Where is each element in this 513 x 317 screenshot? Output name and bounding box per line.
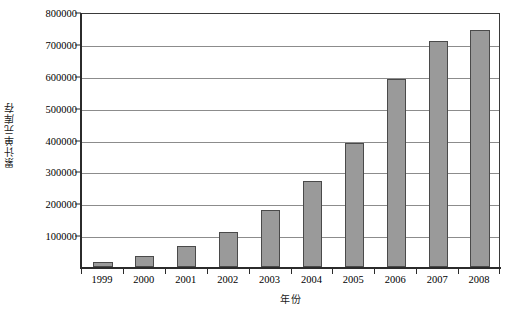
x-axis-tick-label: 2007 [427, 274, 448, 285]
y-axis-tick-label: 700000 [18, 39, 77, 50]
y-axis-tick-label: 800000 [18, 8, 77, 19]
bar [429, 41, 448, 267]
x-axis-tick-label: 2005 [343, 274, 364, 285]
x-axis-tick-label: 2003 [259, 274, 280, 285]
y-axis-tick-label: 500000 [18, 103, 77, 114]
bar [345, 143, 364, 267]
x-axis-tick-label: 2008 [469, 274, 490, 285]
y-axis-tick-label: 600000 [18, 71, 77, 82]
plot-area [81, 13, 500, 268]
bar-chart: 累计单元库存 100000200000300000400000500000600… [0, 0, 513, 317]
bar [219, 232, 238, 267]
x-axis-tick-label: 1999 [91, 274, 112, 285]
x-axis-tick-labels: 1999200020012002200320042005200620072008 [81, 274, 500, 290]
bar [135, 256, 154, 267]
bar [470, 30, 489, 267]
bar [261, 210, 280, 267]
x-axis-tick-label: 2002 [217, 274, 238, 285]
x-axis-tick-label: 2001 [175, 274, 196, 285]
y-axis-tick-label: 200000 [18, 199, 77, 210]
bar [177, 246, 196, 267]
bar [387, 79, 406, 267]
y-axis-title: 累计单元库存 [0, 0, 18, 270]
x-axis-tick-label: 2000 [133, 274, 154, 285]
x-axis-tick-label: 2004 [301, 274, 322, 285]
x-axis-title: 年份 [81, 291, 500, 306]
bar [303, 181, 322, 267]
y-axis-tick-label: 400000 [18, 135, 77, 146]
y-axis-title-text: 累计单元库存 [2, 102, 17, 168]
bars-layer [82, 14, 499, 267]
y-axis-tick-label: 100000 [18, 231, 77, 242]
y-axis-tick-label: 300000 [18, 167, 77, 178]
y-axis-spine [80, 13, 82, 269]
x-axis-tick-label: 2006 [385, 274, 406, 285]
y-axis-tick-labels: 1000002000003000004000005000006000007000… [18, 0, 77, 275]
